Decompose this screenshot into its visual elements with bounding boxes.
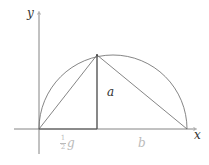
left-segment-label: g	[67, 137, 75, 149]
fraction-denominator: 2	[60, 144, 66, 151]
apex-point	[96, 54, 98, 56]
height-label: a	[107, 86, 114, 98]
diagram: y x a 1 2 g b	[0, 0, 209, 165]
fraction-numerator: 1	[60, 135, 66, 142]
left-chord	[39, 55, 97, 129]
diagram-canvas	[0, 0, 209, 165]
y-axis-label: y	[27, 7, 34, 19]
right-segment-label: b	[138, 137, 146, 149]
x-axis-label: x	[194, 129, 201, 141]
